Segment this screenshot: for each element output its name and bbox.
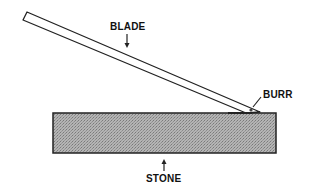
stone-arrow-icon: [162, 159, 167, 171]
burr-label: BURR: [263, 89, 293, 100]
blade-arrow-icon: [125, 34, 130, 48]
stone-label: STONE: [146, 173, 181, 184]
blade-label: BLADE: [110, 21, 145, 32]
stone: [53, 113, 276, 153]
